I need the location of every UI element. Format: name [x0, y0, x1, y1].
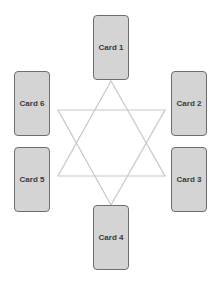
card-2[interactable]: Card 2 [171, 71, 207, 136]
card-label: Card 2 [177, 99, 202, 108]
card-3[interactable]: Card 3 [171, 147, 207, 212]
card-4[interactable]: Card 4 [93, 205, 129, 270]
downward-triangle [58, 110, 165, 205]
card-5[interactable]: Card 5 [14, 147, 50, 212]
card-label: Card 1 [99, 43, 124, 52]
card-label: Card 6 [20, 99, 45, 108]
card-label: Card 5 [20, 175, 45, 184]
card-label: Card 4 [99, 233, 124, 242]
card-6[interactable]: Card 6 [14, 71, 50, 136]
card-label: Card 3 [177, 175, 202, 184]
card-1[interactable]: Card 1 [93, 15, 129, 80]
upward-triangle [58, 81, 165, 176]
